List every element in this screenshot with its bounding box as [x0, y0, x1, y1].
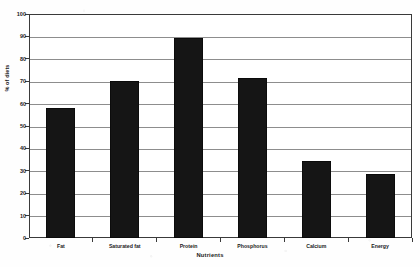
x-tick-mark	[156, 238, 157, 242]
y-tick-label: 10	[4, 213, 26, 219]
y-tick-label: 20	[4, 190, 26, 196]
x-tick-label: Calcium	[284, 243, 348, 250]
x-tick-mark	[412, 238, 413, 242]
bar-series	[29, 14, 412, 238]
x-tick-mark	[92, 238, 93, 242]
x-axis-title: Nutrients	[0, 252, 420, 258]
x-tick-label: Saturated fat	[93, 243, 157, 250]
y-tick-label: 100	[4, 11, 26, 17]
x-tick-label: Fat	[29, 243, 93, 250]
y-tick-label: 60	[4, 101, 26, 107]
x-tick-label: Protein	[157, 243, 221, 250]
y-tick-label: 50	[4, 123, 26, 129]
bar	[366, 174, 395, 238]
x-tick-mark	[348, 238, 349, 242]
y-tick-label: 0	[4, 235, 26, 241]
bar	[238, 78, 267, 238]
bar	[302, 161, 331, 238]
bar	[174, 38, 203, 238]
x-tick-label: Phosphorus	[221, 243, 285, 250]
y-tick-label: 80	[4, 56, 26, 62]
x-tick-label: Energy	[348, 243, 412, 250]
bar	[46, 108, 75, 238]
bar	[110, 81, 139, 238]
y-tick-label: 40	[4, 145, 26, 151]
y-tick-label: 30	[4, 168, 26, 174]
x-tick-mark	[284, 238, 285, 242]
y-tick-label: 70	[4, 78, 26, 84]
y-tick-label: 90	[4, 33, 26, 39]
bar-chart-figure: % of diets 1009080706050403020100 FatSat…	[0, 0, 420, 267]
x-tick-mark	[220, 238, 221, 242]
